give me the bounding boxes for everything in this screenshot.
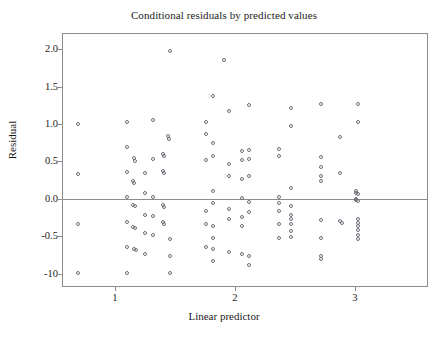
data-point bbox=[211, 141, 215, 145]
data-point bbox=[133, 204, 137, 208]
y-tick-label: 0.0 bbox=[24, 194, 58, 204]
data-point bbox=[204, 222, 208, 226]
data-point bbox=[204, 132, 208, 136]
data-point bbox=[211, 189, 215, 193]
data-point bbox=[319, 236, 323, 240]
data-point bbox=[168, 49, 172, 53]
data-point bbox=[76, 222, 80, 226]
data-point bbox=[319, 174, 323, 178]
data-point bbox=[125, 271, 129, 275]
data-point bbox=[143, 171, 147, 175]
data-point bbox=[277, 236, 281, 240]
data-point bbox=[125, 245, 129, 249]
x-tick-mark bbox=[355, 287, 356, 291]
data-point bbox=[277, 147, 281, 151]
x-tick-label: 1 bbox=[95, 292, 135, 303]
y-axis-tick-labels: 2.01.51.00.50.0-0.5-10 bbox=[20, 33, 58, 287]
y-tick-mark bbox=[58, 124, 62, 125]
data-point bbox=[168, 271, 172, 275]
data-point bbox=[125, 145, 129, 149]
data-point bbox=[227, 217, 231, 221]
data-point bbox=[289, 235, 293, 239]
y-tick-label: -10 bbox=[24, 269, 58, 279]
zero-reference-line bbox=[62, 199, 428, 200]
data-point bbox=[227, 250, 231, 254]
data-point bbox=[240, 149, 244, 153]
data-point bbox=[211, 236, 215, 240]
data-point bbox=[356, 233, 360, 237]
data-point bbox=[143, 191, 147, 195]
data-point bbox=[338, 135, 342, 139]
y-tick-label: 1.5 bbox=[24, 82, 58, 92]
data-point bbox=[151, 157, 155, 161]
data-point bbox=[211, 201, 215, 205]
data-point bbox=[247, 200, 251, 204]
data-point bbox=[240, 177, 244, 181]
data-point bbox=[151, 118, 155, 122]
data-point bbox=[132, 181, 136, 185]
data-point bbox=[227, 174, 231, 178]
data-point bbox=[289, 229, 293, 233]
data-point bbox=[319, 102, 323, 106]
data-point bbox=[227, 162, 231, 166]
data-point bbox=[76, 271, 80, 275]
x-tick-label: 2 bbox=[215, 292, 255, 303]
data-point bbox=[143, 213, 147, 217]
data-point bbox=[211, 259, 215, 263]
data-point bbox=[356, 120, 360, 124]
y-tick-mark bbox=[58, 49, 62, 50]
data-point bbox=[240, 158, 244, 162]
data-point bbox=[338, 171, 342, 175]
y-tick-mark bbox=[58, 236, 62, 237]
data-point bbox=[277, 154, 281, 158]
data-point bbox=[289, 186, 293, 190]
data-point bbox=[76, 122, 80, 126]
data-point bbox=[240, 215, 244, 219]
data-point bbox=[211, 154, 215, 158]
data-point bbox=[340, 221, 344, 225]
data-point bbox=[289, 124, 293, 128]
y-tick-mark bbox=[58, 87, 62, 88]
x-axis-label: Linear predictor bbox=[0, 310, 448, 322]
data-point bbox=[167, 137, 171, 141]
y-axis-label: Residual bbox=[6, 110, 18, 170]
data-point bbox=[134, 248, 138, 252]
data-point bbox=[76, 172, 80, 176]
data-point bbox=[289, 213, 293, 217]
data-point bbox=[277, 209, 281, 213]
data-point bbox=[125, 170, 129, 174]
data-point bbox=[247, 174, 251, 178]
x-tick-mark bbox=[115, 287, 116, 291]
data-point bbox=[319, 218, 323, 222]
data-point bbox=[133, 226, 137, 230]
data-point bbox=[168, 254, 172, 258]
x-tick-mark bbox=[235, 287, 236, 291]
data-point bbox=[247, 210, 251, 214]
y-tick-label: 2.0 bbox=[24, 44, 58, 54]
data-point bbox=[319, 155, 323, 159]
data-point bbox=[211, 224, 215, 228]
data-point bbox=[319, 165, 323, 169]
data-point bbox=[247, 263, 251, 267]
data-point bbox=[125, 220, 129, 224]
data-point bbox=[211, 247, 215, 251]
data-point bbox=[125, 120, 129, 124]
y-tick-mark bbox=[58, 161, 62, 162]
data-point bbox=[168, 237, 172, 241]
data-point bbox=[240, 252, 244, 256]
data-point bbox=[356, 102, 360, 106]
data-point bbox=[211, 94, 215, 98]
data-point bbox=[289, 204, 293, 208]
chart-title: Conditional residuals by predicted value… bbox=[0, 9, 448, 21]
data-point bbox=[289, 217, 293, 221]
y-tick-label: 0.5 bbox=[24, 156, 58, 166]
scatter-plot-figure: Conditional residuals by predicted value… bbox=[0, 0, 448, 341]
y-tick-label: -0.5 bbox=[24, 231, 58, 241]
data-point bbox=[143, 231, 147, 235]
data-point bbox=[162, 154, 166, 158]
data-point bbox=[162, 222, 166, 226]
x-tick-label: 3 bbox=[335, 292, 375, 303]
data-point bbox=[319, 179, 323, 183]
data-point bbox=[319, 257, 323, 261]
data-point bbox=[227, 109, 231, 113]
